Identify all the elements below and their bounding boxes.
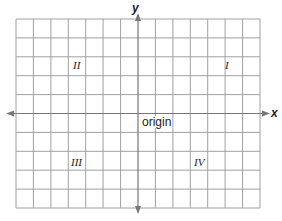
quadrant-IV-label: IV [194, 157, 204, 168]
y-axis-down-arrow-icon [135, 206, 141, 214]
origin-label: origin [141, 116, 172, 128]
coordinate-plane [0, 0, 282, 221]
x-axis-left-arrow-icon [6, 111, 14, 117]
x-axis-right-arrow-icon [262, 111, 270, 117]
x-axis-label: x [271, 107, 278, 119]
quadrant-I-label: I [225, 60, 229, 71]
quadrant-III-label: III [71, 157, 82, 168]
quadrant-II-label: II [73, 60, 80, 71]
y-axis-label: y [132, 2, 139, 14]
